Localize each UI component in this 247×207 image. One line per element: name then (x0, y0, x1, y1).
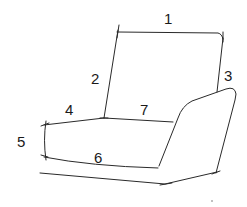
label-4: 4 (65, 101, 73, 118)
armchair-diagram: 1 2 3 4 5 6 7 (0, 0, 247, 207)
label-1: 1 (164, 10, 172, 27)
stray-dot (211, 200, 212, 201)
label-3: 3 (224, 67, 232, 84)
armrest-outline (159, 88, 236, 173)
dimension-line-2 (104, 30, 118, 118)
base-outline (40, 172, 217, 184)
dimension-line-5 (45, 121, 47, 160)
armchair-sketch: 1 2 3 4 5 6 7 (0, 0, 247, 207)
label-6: 6 (94, 149, 102, 166)
dimension-line-4 (44, 118, 104, 125)
label-5: 5 (17, 133, 25, 150)
dimension-line-7 (104, 118, 173, 122)
label-7: 7 (140, 101, 148, 118)
dimension-line-3 (217, 38, 223, 92)
dimension-line-1 (117, 32, 223, 39)
label-2: 2 (91, 70, 99, 87)
